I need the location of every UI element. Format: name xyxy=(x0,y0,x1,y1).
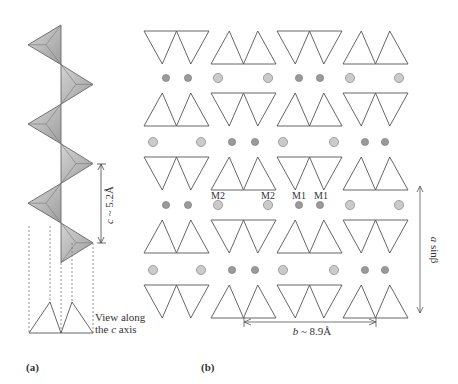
m2-site xyxy=(148,265,157,274)
tetrahedron xyxy=(28,25,61,65)
m1-site xyxy=(162,201,169,208)
site-label-m1: M1 xyxy=(292,190,306,201)
m1-site xyxy=(184,74,191,81)
chain-cross-section xyxy=(343,93,408,126)
chain-cross-section xyxy=(211,285,276,318)
m2-site xyxy=(329,265,338,274)
m1-site xyxy=(251,138,258,145)
tetrahedron xyxy=(61,65,93,105)
m1-site xyxy=(162,74,169,81)
m2-site xyxy=(394,200,403,209)
tetrahedron xyxy=(61,223,93,263)
m2-site xyxy=(213,200,222,209)
m2-site xyxy=(196,265,205,274)
m1-site xyxy=(361,138,368,145)
m1-site xyxy=(381,266,388,273)
c-dimension-label: c ~ 5.2Å xyxy=(103,186,115,224)
tetrahedron xyxy=(28,104,61,144)
chain-cross-section xyxy=(211,157,276,190)
chain-cross-section xyxy=(211,220,276,253)
chain-cross-section xyxy=(144,93,209,126)
m2-site xyxy=(329,137,338,146)
b-dimension-label: b ~ 8.9Å xyxy=(293,325,332,337)
m2-site xyxy=(213,73,222,82)
a-sinbeta-arrow xyxy=(417,186,423,313)
view-caption-line2: the c axis xyxy=(95,323,137,335)
triangle-rows xyxy=(144,31,408,318)
m1-site xyxy=(295,201,302,208)
tetrahedron xyxy=(61,144,93,184)
m1-site xyxy=(316,74,323,81)
chain-cross-section xyxy=(277,93,342,126)
m2-site xyxy=(196,137,205,146)
chain-cross-section xyxy=(343,285,408,318)
a-sinbeta-label: a sinβ xyxy=(429,237,441,264)
pyroxene-structure-diagram: c ~ 5.2Å View along the c axis (a) M2 M2… xyxy=(0,0,458,384)
chain-cross-section xyxy=(277,220,342,253)
chain-cross-section xyxy=(343,220,408,253)
m1-site xyxy=(184,201,191,208)
m2-site xyxy=(394,73,403,82)
tetrahedral-chain xyxy=(28,25,93,263)
m1-site xyxy=(361,266,368,273)
site-label-m2: M2 xyxy=(261,190,275,201)
chain-cross-section xyxy=(277,285,342,318)
m2-site xyxy=(278,137,287,146)
m1-site xyxy=(251,266,258,273)
m2-site xyxy=(345,200,354,209)
chain-cross-section xyxy=(144,157,209,190)
chain-cross-section xyxy=(144,220,209,253)
view-caption-line1: View along xyxy=(95,311,146,323)
panel-a-label: (a) xyxy=(26,361,39,374)
m1-site xyxy=(381,138,388,145)
chain-cross-section xyxy=(277,31,342,64)
chain-cross-section xyxy=(211,93,276,126)
chain-cross-section xyxy=(211,31,276,64)
m1-site xyxy=(316,201,323,208)
site-label-m2: M2 xyxy=(211,190,225,201)
site-label-m1: M1 xyxy=(314,190,328,201)
m2-site xyxy=(263,200,272,209)
chain-cross-section xyxy=(144,31,209,64)
m2-site xyxy=(263,73,272,82)
m2-site xyxy=(148,137,157,146)
m1-site xyxy=(228,138,235,145)
panel-b-label: (b) xyxy=(201,361,215,374)
chain-cross-section xyxy=(343,31,408,64)
chain-cross-section xyxy=(277,157,342,190)
m1-site xyxy=(228,266,235,273)
m2-site xyxy=(345,73,354,82)
tetrahedron xyxy=(28,183,61,223)
chain-cross-section xyxy=(343,157,408,190)
m1-site xyxy=(295,74,302,81)
m2-site xyxy=(278,265,287,274)
chain-cross-section xyxy=(144,285,209,318)
